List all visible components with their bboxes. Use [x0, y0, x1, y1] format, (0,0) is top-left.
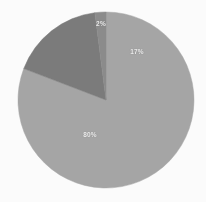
pie-slice-group	[18, 12, 194, 188]
pie-chart-canvas	[0, 0, 206, 202]
pie-chart: 80%17%2%	[0, 0, 206, 202]
